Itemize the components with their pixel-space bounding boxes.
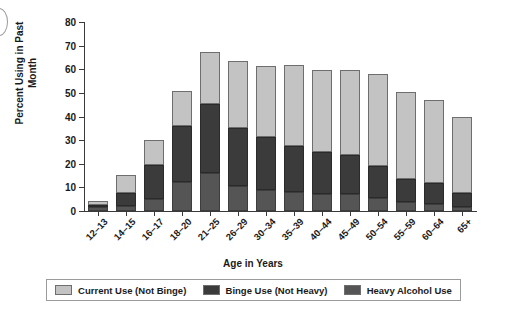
bar-55-59[interactable] bbox=[396, 22, 416, 211]
bar-segment-heavy-use bbox=[88, 207, 108, 211]
x-axis-tick bbox=[434, 211, 435, 216]
y-axis-tick-label: 50 bbox=[44, 87, 76, 98]
y-axis-tick-label: 10 bbox=[44, 182, 76, 193]
bar-segment-current-use bbox=[200, 52, 220, 104]
y-axis-tick-label: 0 bbox=[44, 206, 76, 217]
legend-item-2[interactable]: Heavy Alcohol Use bbox=[344, 285, 452, 296]
bar-segment-heavy-use bbox=[312, 194, 332, 211]
bar-segment-heavy-use bbox=[256, 190, 276, 211]
y-axis-tick-label: 20 bbox=[44, 158, 76, 169]
legend-label: Heavy Alcohol Use bbox=[367, 285, 452, 296]
plot-area bbox=[84, 22, 476, 211]
bar-segment-binge-use bbox=[368, 166, 388, 198]
bar-segment-heavy-use bbox=[424, 204, 444, 211]
bar-35-39[interactable] bbox=[284, 22, 304, 211]
bar-segment-binge-use bbox=[144, 165, 164, 199]
bar-45-49[interactable] bbox=[340, 22, 360, 211]
bar-segment-current-use bbox=[284, 65, 304, 147]
bar-segment-current-use bbox=[396, 92, 416, 179]
x-axis-title: Age in Years bbox=[0, 258, 506, 269]
bar-segment-binge-use bbox=[172, 126, 192, 182]
bar-segment-heavy-use bbox=[368, 198, 388, 211]
bar-segment-binge-use bbox=[200, 104, 220, 173]
bar-50-54[interactable] bbox=[368, 22, 388, 211]
y-axis-tick-label: 30 bbox=[44, 135, 76, 146]
legend-swatch-icon bbox=[344, 285, 361, 295]
legend-label: Binge Use (Not Heavy) bbox=[226, 285, 328, 296]
bar-segment-heavy-use bbox=[340, 194, 360, 211]
bar-30-34[interactable] bbox=[256, 22, 276, 211]
bar-segment-heavy-use bbox=[228, 186, 248, 211]
legend-item-1[interactable]: Binge Use (Not Heavy) bbox=[203, 285, 328, 296]
chart-figure: Percent Using in Past Month 010203040506… bbox=[0, 0, 506, 318]
bar-segment-binge-use bbox=[424, 183, 444, 204]
bar-16-17[interactable] bbox=[144, 22, 164, 211]
x-axis-tick bbox=[210, 211, 211, 216]
legend-swatch-icon bbox=[203, 285, 220, 295]
x-axis-tick bbox=[98, 211, 99, 216]
x-axis-tick bbox=[378, 211, 379, 216]
bar-segment-binge-use bbox=[256, 137, 276, 190]
bar-12-13[interactable] bbox=[88, 22, 108, 211]
bar-segment-heavy-use bbox=[116, 206, 136, 211]
bar-segment-current-use bbox=[452, 117, 472, 193]
bar-60-64[interactable] bbox=[424, 22, 444, 211]
bar-segment-current-use bbox=[368, 74, 388, 165]
bar-segment-binge-use bbox=[312, 152, 332, 195]
x-axis-tick bbox=[462, 211, 463, 216]
bar-40-44[interactable] bbox=[312, 22, 332, 211]
bar-segment-heavy-use bbox=[452, 207, 472, 211]
x-axis-tick bbox=[266, 211, 267, 216]
bar-segment-current-use bbox=[172, 91, 192, 127]
y-axis-tick-label: 60 bbox=[44, 64, 76, 75]
bar-segment-current-use bbox=[228, 61, 248, 127]
y-axis-tick-label: 40 bbox=[44, 111, 76, 122]
bar-segment-binge-use bbox=[340, 155, 360, 194]
x-axis-tick bbox=[182, 211, 183, 216]
x-axis-tick bbox=[126, 211, 127, 216]
page-border-arc bbox=[0, 8, 8, 36]
bar-segment-heavy-use bbox=[284, 192, 304, 211]
bar-segment-heavy-use bbox=[172, 182, 192, 211]
x-axis-tick bbox=[294, 211, 295, 216]
legend-swatch-icon bbox=[55, 285, 72, 295]
bar-segment-current-use bbox=[424, 100, 444, 183]
y-axis-tick-label: 80 bbox=[44, 17, 76, 28]
legend-label: Current Use (Not Binge) bbox=[78, 285, 186, 296]
bar-segment-current-use bbox=[340, 70, 360, 155]
chart-legend: Current Use (Not Binge)Binge Use (Not He… bbox=[46, 279, 461, 301]
bar-segment-heavy-use bbox=[396, 202, 416, 211]
bar-21-25[interactable] bbox=[200, 22, 220, 211]
bar-segment-current-use bbox=[116, 175, 136, 192]
bar-segment-current-use bbox=[256, 66, 276, 137]
x-axis-tick bbox=[350, 211, 351, 216]
x-axis-line bbox=[84, 211, 477, 212]
bar-segment-current-use bbox=[144, 140, 164, 165]
x-axis-tick bbox=[238, 211, 239, 216]
bar-segment-binge-use bbox=[396, 179, 416, 202]
x-axis-tick bbox=[322, 211, 323, 216]
y-axis-tick-label: 70 bbox=[44, 40, 76, 51]
bar-segment-heavy-use bbox=[144, 199, 164, 211]
x-axis-tick bbox=[154, 211, 155, 216]
bar-14-15[interactable] bbox=[116, 22, 136, 211]
bar-segment-binge-use bbox=[116, 193, 136, 207]
bar-segment-heavy-use bbox=[200, 173, 220, 211]
x-axis-tick bbox=[406, 211, 407, 216]
bar-65+[interactable] bbox=[452, 22, 472, 211]
legend-item-0[interactable]: Current Use (Not Binge) bbox=[55, 285, 186, 296]
y-axis-tick bbox=[79, 211, 84, 212]
bar-segment-binge-use bbox=[228, 128, 248, 186]
bar-segment-binge-use bbox=[452, 193, 472, 206]
bar-26-29[interactable] bbox=[228, 22, 248, 211]
bar-segment-current-use bbox=[312, 70, 332, 152]
bar-18-20[interactable] bbox=[172, 22, 192, 211]
y-axis-title: Percent Using in Past Month bbox=[13, 13, 39, 133]
bar-segment-binge-use bbox=[284, 146, 304, 191]
